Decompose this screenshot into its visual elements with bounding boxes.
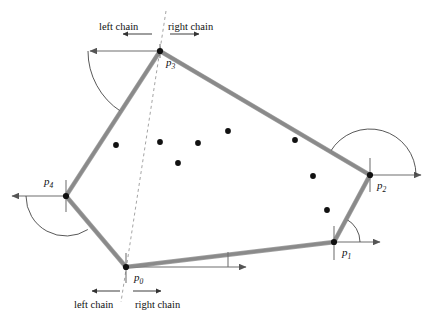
vertex-label-p3: p3: [166, 57, 175, 68]
angle-arc-p4: [26, 196, 88, 236]
interior-point: [113, 142, 119, 148]
diagram-canvas: [0, 0, 433, 317]
interior-point: [225, 128, 231, 134]
bottom-right-chain-label: right chain: [135, 300, 180, 311]
hull-vertex-dot-p0: [123, 264, 129, 270]
hull-vertex-dot-p2: [367, 172, 373, 178]
angle-arc-p2: [331, 129, 416, 175]
vertex-label-base: p: [342, 246, 348, 258]
interior-point: [157, 139, 163, 145]
vertex-label-subscript: 2: [383, 185, 387, 194]
convex-hull-diagram: left chain right chain left chain right …: [0, 0, 433, 317]
interior-point: [175, 160, 181, 166]
interior-point: [310, 173, 316, 179]
interior-points: [113, 128, 330, 213]
vertex-label-subscript: 4: [50, 181, 54, 190]
interior-point: [195, 140, 201, 146]
bottom-left-chain-label: left chain: [74, 300, 113, 311]
vertex-label-p1: p1: [342, 247, 351, 258]
top-right-chain-label: right chain: [168, 22, 213, 33]
interior-point: [292, 137, 298, 143]
hull-vertex-dot-p1: [331, 239, 337, 245]
vertex-label-base: p: [134, 271, 140, 283]
hull-vertex-dots: [63, 48, 373, 270]
top-left-chain-label: left chain: [99, 22, 138, 33]
vertex-label-base: p: [44, 175, 50, 187]
vertex-label-p4: p4: [44, 176, 53, 187]
angle-arcs: [26, 51, 416, 242]
vertex-label-p0: p0: [134, 272, 143, 283]
hull-edges: [66, 51, 370, 267]
vertex-label-subscript: 1: [348, 252, 352, 261]
vertex-label-base: p: [166, 56, 172, 68]
vertex-label-subscript: 0: [140, 277, 144, 286]
angle-arc-p1: [346, 219, 360, 242]
angle-arc-p3: [88, 51, 121, 111]
hull-vertex-dot-p4: [63, 193, 69, 199]
interior-point: [324, 207, 330, 213]
vertex-label-subscript: 3: [172, 62, 176, 71]
vertex-label-base: p: [377, 179, 383, 191]
hull-vertex-dot-p3: [157, 48, 163, 54]
hull-edge-fill: [66, 51, 370, 267]
vertex-label-p2: p2: [377, 180, 386, 191]
